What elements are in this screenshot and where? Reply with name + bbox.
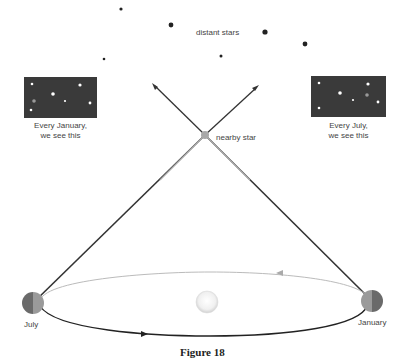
- earth-july-label: July: [24, 320, 38, 330]
- earth-july-icon: [22, 292, 44, 314]
- distant-star-icon: [303, 42, 308, 47]
- july-sky-view: [311, 76, 386, 117]
- january-view-line2: we see this: [24, 131, 97, 141]
- sun-icon: [196, 291, 218, 313]
- january-view-caption: Every January, we see this: [24, 121, 97, 141]
- distant-star-icon: [262, 29, 267, 34]
- distant-stars-label: distant stars: [196, 28, 239, 38]
- july-view-line2: we see this: [311, 131, 386, 141]
- distant-star-icon: [103, 58, 106, 61]
- orbit-arrow-icon: [141, 331, 148, 337]
- earth-january-icon: [361, 290, 383, 312]
- distant-star-icon: [220, 55, 223, 58]
- distant-star-icon: [119, 7, 122, 10]
- january-sky-view: [24, 77, 97, 118]
- figure-caption: Figure 18: [180, 346, 225, 358]
- january-view-line1: Every January,: [24, 121, 97, 131]
- nearby-star-icon: [201, 131, 209, 139]
- july-view-caption: Every July, we see this: [311, 121, 386, 141]
- july-view-line1: Every July,: [311, 121, 386, 131]
- parallax-diagram: [0, 0, 410, 363]
- nearby-star-label: nearby star: [216, 133, 256, 143]
- distant-star-icon: [169, 23, 174, 28]
- earth-january-label: January: [358, 318, 386, 328]
